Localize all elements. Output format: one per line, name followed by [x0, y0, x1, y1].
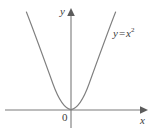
parabola-figure: y x 0 y=x2: [0, 0, 155, 133]
graph-canvas: [0, 0, 155, 133]
x-axis-label: x: [140, 115, 145, 126]
y-axis-label: y: [60, 6, 65, 17]
x-axis-arrow-icon: [140, 106, 148, 114]
equation-label: y=x2: [113, 28, 135, 39]
equation-exponent: 2: [131, 26, 135, 34]
equation-operator: =: [118, 27, 126, 39]
y-axis-arrow-icon: [67, 8, 75, 16]
origin-label: 0: [62, 112, 68, 123]
